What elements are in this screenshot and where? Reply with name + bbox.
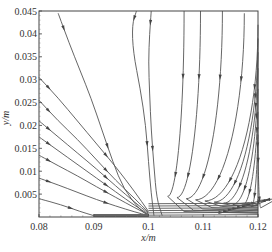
x-tick-label: 0.08: [30, 221, 48, 232]
y-axis-title: y/m: [0, 111, 11, 126]
arrow-icon: [249, 189, 252, 195]
arrow-icon: [68, 206, 74, 209]
streamline: [39, 155, 149, 215]
y-tick-label: 0.005: [15, 189, 38, 200]
arrow-icon: [61, 25, 64, 31]
y-tick-label: 0.035: [15, 51, 38, 62]
streamline: [39, 77, 149, 211]
streamline: [149, 206, 259, 207]
y-tick-label: 0.015: [15, 143, 38, 154]
arrow-icon: [182, 74, 185, 80]
streamline: [177, 11, 258, 212]
x-tick-label: 0.12: [249, 221, 267, 232]
arrow-icon: [202, 173, 205, 179]
y-tick-label: 0.04: [20, 28, 38, 39]
streamline: [39, 137, 149, 214]
streamline: [39, 178, 149, 216]
arrow-icon: [217, 175, 221, 181]
arrow-icon: [233, 180, 237, 186]
y-tick-label: 0.02: [20, 120, 38, 131]
streamline: [168, 11, 258, 213]
x-tick-label: 0.11: [195, 221, 212, 232]
y-tick-label: 0.045: [15, 6, 38, 17]
y-axis: 0.0050.010.0150.020.0250.030.0350.040.04…: [15, 6, 43, 213]
x-tick-label: 0.1: [142, 221, 155, 232]
arrow-icon: [133, 15, 136, 21]
streamline: [149, 210, 259, 211]
streamlines: [39, 11, 272, 216]
streamline: [196, 13, 258, 209]
arrow-icon: [198, 74, 201, 80]
streamline: [149, 212, 259, 213]
streamline: [205, 25, 258, 208]
arrow-icon: [103, 201, 109, 204]
streamline: [39, 100, 149, 212]
y-tick-label: 0.025: [15, 97, 38, 108]
x-axis-title: x/m: [140, 232, 155, 243]
y-tick-label: 0.01: [20, 166, 38, 177]
streamline: [39, 199, 94, 216]
streamline-chart: 0.080.090.10.110.12 0.0050.010.0150.020.…: [0, 0, 272, 252]
streamline: [149, 208, 259, 209]
arrow-icon: [187, 173, 190, 179]
streamline: [39, 121, 149, 213]
x-tick-label: 0.09: [85, 221, 103, 232]
arrow-icon: [46, 158, 52, 162]
arrow-icon: [228, 177, 232, 183]
arrow-icon: [240, 76, 243, 82]
arrow-icon: [46, 179, 52, 182]
streamline: [149, 203, 259, 204]
arrow-icon: [239, 182, 243, 188]
y-tick-label: 0.03: [20, 74, 38, 85]
arrow-icon: [105, 143, 108, 149]
arrow-icon: [103, 189, 109, 193]
arrow-icon: [244, 185, 247, 191]
